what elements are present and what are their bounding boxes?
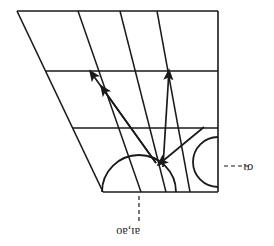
outline-group <box>17 11 218 192</box>
figure-container: σı aı,aᴏ <box>0 0 274 246</box>
arrow-up-right <box>163 70 169 167</box>
grid-line-slant-1 <box>78 11 141 192</box>
label-sigma-c: σı <box>243 160 253 175</box>
technical-diagram <box>0 0 274 246</box>
outline-left-slant-edge <box>17 11 103 192</box>
semicircle-small <box>193 137 218 187</box>
horizontal-grid-lines <box>46 71 218 128</box>
label-alpha-i-alpha-o: aı,aᴏ <box>116 224 140 239</box>
grid-line-slant-3 <box>157 11 190 192</box>
dashed-leaders <box>139 166 250 221</box>
slanted-grid-lines <box>78 11 190 192</box>
arrow-up-left-inner <box>101 86 156 163</box>
